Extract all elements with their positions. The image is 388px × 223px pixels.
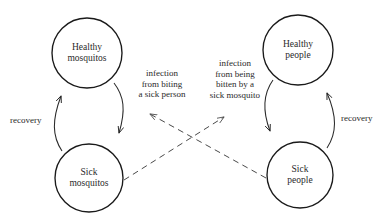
edge-label-mosquito-infection: infection from biting a sick person <box>124 68 200 100</box>
compartment-healthy-mosquitos[interactable] <box>52 18 122 88</box>
edge-label-human-infection: infection from being bitten by a sick mo… <box>196 58 274 100</box>
dashed-arrow-sick-people-to-mosquitos <box>150 114 266 178</box>
edge-label-line-4: sick mosquito <box>196 90 274 101</box>
edge-label-line-1: infection <box>196 58 274 69</box>
compartment-sick-mosquitos[interactable] <box>55 144 123 212</box>
edge-label-line-1: recovery <box>10 115 62 126</box>
edge-label-line-2: from biting <box>124 79 200 90</box>
edge-label-line-1: recovery <box>341 113 388 124</box>
edge-label-line-3: a sick person <box>124 89 200 100</box>
arrow-human-recovery <box>327 93 335 148</box>
edge-label-human-recovery: recovery <box>341 113 388 124</box>
edge-label-mosquito-recovery: recovery <box>10 115 62 126</box>
edge-label-line-1: infection <box>124 68 200 79</box>
compartment-healthy-people[interactable] <box>263 15 333 85</box>
dashed-arrow-sick-mosquitos-to-people <box>124 117 224 180</box>
arrow-mosquito-infection <box>114 83 123 133</box>
transmission-diagram: Healthy mosquitos Healthy people Sick mo… <box>0 0 388 223</box>
edge-label-line-3: bitten by a <box>196 79 274 90</box>
compartment-sick-people[interactable] <box>267 142 333 208</box>
edge-label-line-2: from being <box>196 69 274 80</box>
